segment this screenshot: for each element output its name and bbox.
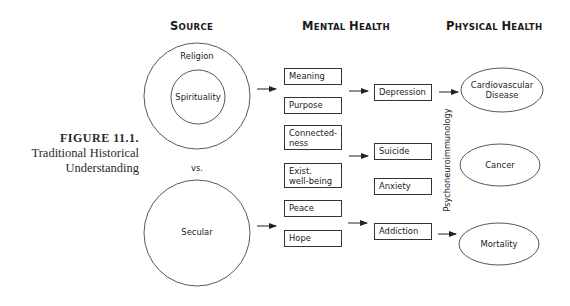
- outcome-depression: Depression: [374, 84, 432, 101]
- diagram-canvas: SOURCE MENTAL HEALTH PHYSICAL HEALTH FIG…: [0, 0, 570, 306]
- outcome-suicide: Suicide: [374, 143, 432, 160]
- cardiovascular-disease-label: CardiovascularDisease: [462, 80, 542, 100]
- mediator-meaning: Meaning: [284, 68, 342, 85]
- figure-number: FIGURE 11.1.: [60, 131, 139, 146]
- mediator-hope: Hope: [284, 230, 342, 247]
- mediator-peace: Peace: [284, 200, 342, 217]
- header-physical-health: PHYSICAL HEALTH: [446, 19, 542, 33]
- mediator-existential-well-being: Exist.well-being: [284, 163, 342, 188]
- header-mental-health: MENTAL HEALTH: [302, 19, 390, 33]
- outcome-addiction: Addiction: [374, 223, 432, 240]
- cancer-label: Cancer: [460, 160, 540, 170]
- spirituality-label: Spirituality: [172, 92, 224, 102]
- figure-caption-line2: Understanding: [65, 161, 139, 176]
- figure-caption-line1: Traditional Historical: [31, 146, 139, 161]
- pathway-label: Psychoneuroimmunology: [441, 108, 453, 212]
- mortality-label: Mortality: [459, 239, 539, 249]
- mediator-purpose: Purpose: [284, 97, 342, 114]
- header-source: SOURCE: [170, 19, 213, 33]
- mediator-connectedness: Connected-ness: [284, 125, 342, 150]
- religion-label: Religion: [172, 51, 222, 61]
- versus-label: vs.: [185, 163, 209, 173]
- secular-label: Secular: [172, 227, 222, 237]
- outcome-anxiety: Anxiety: [374, 178, 432, 195]
